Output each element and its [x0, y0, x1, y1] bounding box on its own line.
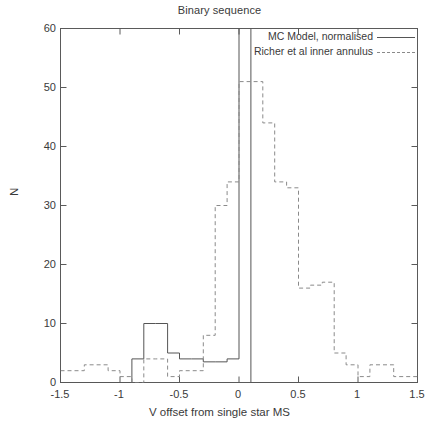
legend-label: Richer et al inner annulus	[254, 45, 373, 57]
legend: MC Model, normalised Richer et al inner …	[219, 30, 415, 63]
plot-area	[0, 0, 439, 430]
legend-item-mc-model: MC Model, normalised	[219, 30, 415, 45]
data-series-mc-model	[61, 17, 418, 383]
legend-line-sample-solid	[377, 37, 415, 39]
chart-figure: Binary sequence N V offset from single s…	[0, 0, 439, 430]
legend-label: MC Model, normalised	[268, 30, 373, 42]
legend-line-sample-dashed	[377, 52, 415, 54]
legend-item-richer: Richer et al inner annulus	[219, 45, 415, 60]
